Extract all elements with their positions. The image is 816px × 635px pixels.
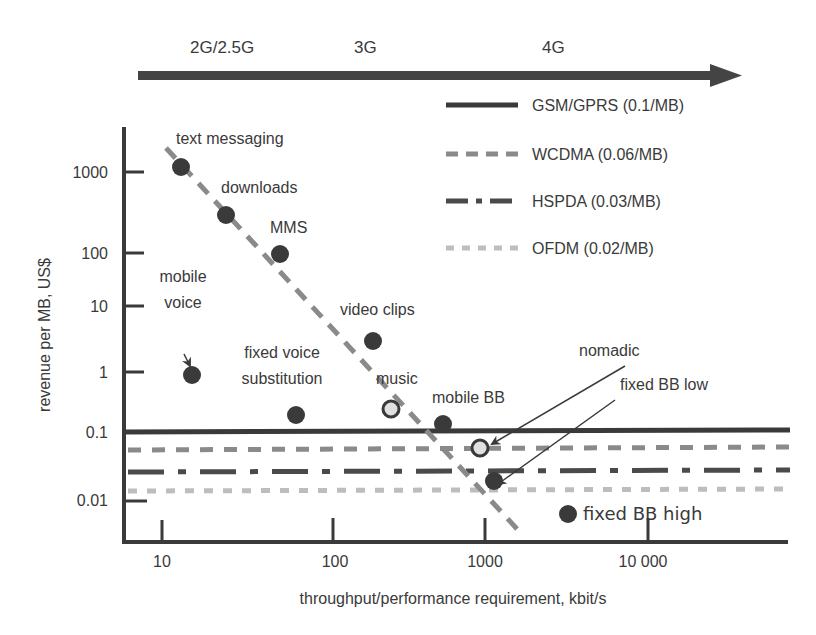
gen-label-2g: 2G/2.5G [190,38,254,57]
point-labels: text messaging downloads MMS mobile voic… [159,130,708,524]
line-ofdm [128,489,790,491]
gen-label-4g: 4G [542,38,565,57]
axes: 1000 100 10 1 0.1 0.01 10 100 1000 10 00… [36,127,788,607]
line-gsm [124,430,790,432]
label-text-messaging: text messaging [176,130,284,147]
point-music [383,401,399,417]
y-tick-label-10: 10 [90,298,108,315]
point-fixed-bb-low [485,472,503,490]
y-tick-label-100: 100 [81,245,108,262]
arrow-mobile-voice [184,354,190,366]
generation-arrow: 2G/2.5G 3G 4G [138,38,742,87]
label-video-clips: video clips [340,301,415,318]
point-nomadic [472,440,488,456]
gen-label-3g: 3G [354,38,377,57]
point-downloads [217,206,235,224]
label-voice: voice [164,294,201,311]
point-mms [271,245,289,263]
label-nomadic: nomadic [579,342,639,359]
point-mobile-voice [183,366,201,384]
data-points [172,158,577,523]
legend-label-wcdma: WCDMA (0.06/MB) [532,146,668,163]
legend-label-hspda: HSPDA (0.03/MB) [532,193,661,210]
legend-label-gsm: GSM/GPRS (0.1/MB) [532,97,684,114]
x-tick-label-1000: 1000 [467,553,503,570]
y-axis-title: revenue per MB, US$ [36,258,53,412]
point-video-clips [364,332,382,350]
y-tick-label-1000: 1000 [72,164,108,181]
x-tick-label-10: 10 [153,553,171,570]
label-fixed-bb-high: fixed BB high [583,503,702,524]
y-tick-label-1: 1 [99,364,108,381]
line-wcdma [128,447,790,450]
label-mobile: mobile [159,268,206,285]
x-tick-label-100: 100 [322,553,349,570]
label-downloads: downloads [221,179,298,196]
label-fixed-bb-low: fixed BB low [620,376,708,393]
point-mobile-bb [434,415,452,433]
generation-arrow-shaft [138,71,713,80]
legend: GSM/GPRS (0.1/MB) WCDMA (0.06/MB) HSPDA … [446,97,684,257]
x-tick-label-10000: 10 000 [619,553,668,570]
price-lines [124,430,790,491]
chart: 2G/2.5G 3G 4G GSM/GPRS (0.1/MB) WCDMA (0… [0,0,816,635]
arrow-fixed-bb-low [498,400,615,484]
label-fixed-voice: fixed voice [244,344,320,361]
label-mobile-bb: mobile BB [432,389,505,406]
point-fixed-voice [287,406,305,424]
generation-arrow-head [710,64,742,87]
y-tick-label-001: 0.01 [77,492,108,509]
x-axis-title: throughput/performance requirement, kbit… [300,590,607,607]
label-music: music [376,370,418,387]
y-tick-label-01: 0.1 [86,424,108,441]
line-hspda [128,470,790,472]
point-text-messaging [172,158,190,176]
label-substitution: substitution [242,370,323,387]
label-mms: MMS [270,219,307,236]
point-fixed-bb-high [559,505,577,523]
legend-label-ofdm: OFDM (0.02/MB) [532,240,654,257]
